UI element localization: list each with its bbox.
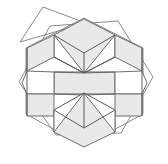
tessellation-diagram [0,0,168,164]
tile-lower-left-rhombus [27,94,54,116]
tile-lower-right-rhombus [115,94,142,116]
tile-center-band [54,72,115,95]
figure-container [0,0,168,164]
